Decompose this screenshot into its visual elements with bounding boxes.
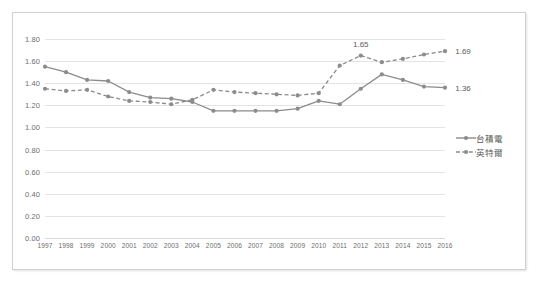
- data-point: [232, 90, 236, 94]
- series-lines: [45, 39, 445, 238]
- x-tick-label: 2012: [353, 242, 368, 249]
- y-tick-label: 1.00: [25, 123, 40, 132]
- data-point: [43, 87, 47, 91]
- data-point: [296, 107, 300, 111]
- y-tick-label: 1.80: [25, 35, 40, 44]
- data-point: [232, 109, 236, 113]
- data-label: 1.65: [353, 39, 369, 48]
- legend-label-tsmc: 台積電: [476, 132, 504, 144]
- data-point: [253, 91, 257, 95]
- series-line-1: [45, 51, 445, 104]
- x-tick-label: 2005: [206, 242, 221, 249]
- data-point: [64, 70, 68, 74]
- data-point: [274, 92, 278, 96]
- y-tick-label: 1.40: [25, 79, 40, 88]
- y-tick-label: 1.60: [25, 57, 40, 66]
- chart-frame: 0.000.200.400.600.801.001.201.401.601.80…: [12, 12, 526, 270]
- x-tick-label: 2004: [185, 242, 200, 249]
- x-tick-label: 1998: [59, 242, 74, 249]
- y-tick-label: 0.80: [25, 145, 40, 154]
- data-point: [317, 91, 321, 95]
- y-tick-label: 1.20: [25, 101, 40, 110]
- data-point: [127, 99, 131, 103]
- data-point: [85, 88, 89, 92]
- data-point: [64, 89, 68, 93]
- y-tick-label: 0.60: [25, 167, 40, 176]
- data-point: [274, 109, 278, 113]
- data-point: [211, 109, 215, 113]
- x-tick-label: 2003: [164, 242, 179, 249]
- x-tick-label: 1997: [37, 242, 52, 249]
- data-point: [85, 78, 89, 82]
- x-tick-label: 2006: [227, 242, 242, 249]
- data-point: [401, 78, 405, 82]
- gridline: [45, 238, 445, 239]
- data-point: [190, 98, 194, 102]
- x-tick-label: 1999: [80, 242, 95, 249]
- x-tick-label: 2011: [332, 242, 347, 249]
- data-point: [443, 86, 447, 90]
- x-tick-label: 2010: [311, 242, 326, 249]
- data-point: [169, 102, 173, 106]
- plot-area: 1.651.691.36: [45, 39, 445, 238]
- chart-legend: 台積電 英特爾: [456, 131, 522, 159]
- legend-label-intel: 英特爾: [476, 146, 504, 158]
- x-tick-label: 2002: [143, 242, 158, 249]
- x-tick-label: 2007: [248, 242, 263, 249]
- data-point: [43, 65, 47, 69]
- data-point: [380, 72, 384, 76]
- data-point: [317, 99, 321, 103]
- x-tick-label: 2000: [101, 242, 116, 249]
- x-tick-label: 2016: [437, 242, 452, 249]
- x-axis-labels: 1997199819992000200120022003200420052006…: [45, 242, 445, 256]
- y-tick-label: 0.20: [25, 211, 40, 220]
- x-tick-label: 2014: [395, 242, 410, 249]
- data-label: 1.69: [455, 47, 471, 56]
- data-point: [359, 53, 363, 57]
- legend-swatch-solid-icon: [456, 133, 476, 143]
- y-axis-labels: 0.000.200.400.600.801.001.201.401.601.80: [13, 39, 45, 238]
- data-point: [169, 97, 173, 101]
- data-point: [148, 95, 152, 99]
- legend-swatch-dashed-icon: [456, 147, 476, 157]
- data-point: [211, 88, 215, 92]
- data-point: [148, 100, 152, 104]
- data-point: [422, 52, 426, 56]
- data-point: [296, 93, 300, 97]
- x-tick-label: 2008: [269, 242, 284, 249]
- x-tick-label: 2013: [374, 242, 389, 249]
- data-point: [106, 94, 110, 98]
- data-label: 1.36: [455, 83, 471, 92]
- legend-item-1[interactable]: 英特爾: [456, 145, 522, 159]
- data-point: [443, 49, 447, 53]
- data-point: [106, 79, 110, 83]
- data-point: [401, 57, 405, 61]
- data-point: [253, 109, 257, 113]
- x-tick-label: 2009: [290, 242, 305, 249]
- data-point: [359, 87, 363, 91]
- y-tick-label: 0.40: [25, 189, 40, 198]
- data-point: [127, 90, 131, 94]
- data-point: [338, 102, 342, 106]
- data-point: [338, 63, 342, 67]
- x-tick-label: 2015: [416, 242, 431, 249]
- series-line-0: [45, 67, 445, 111]
- legend-item-0[interactable]: 台積電: [456, 131, 522, 145]
- x-tick-label: 2001: [122, 242, 137, 249]
- data-point: [422, 84, 426, 88]
- data-point: [380, 60, 384, 64]
